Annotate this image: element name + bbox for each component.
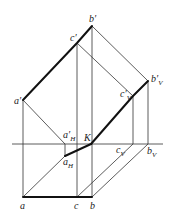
label-c-v: cV bbox=[116, 144, 125, 158]
shadow-ray-a-prime bbox=[23, 100, 65, 144]
label-c: c bbox=[74, 200, 79, 211]
line-a-prime-b-prime bbox=[23, 26, 92, 100]
shadow-ray-b-prime bbox=[92, 26, 148, 81]
label-c-prime-v: c′V bbox=[120, 88, 132, 102]
label-a: a bbox=[20, 200, 25, 211]
label-b-v: bV bbox=[147, 145, 157, 159]
label-b-prime-v: b′V bbox=[151, 73, 163, 87]
label-k: K bbox=[83, 132, 92, 143]
label-b-prime: b′ bbox=[89, 13, 97, 24]
label-a-h: aH bbox=[63, 156, 74, 170]
label-b: b bbox=[90, 200, 95, 211]
label-c-prime: c′ bbox=[70, 32, 77, 43]
label-a-prime-h: a′H bbox=[63, 129, 76, 143]
label-a-prime: a′ bbox=[14, 95, 22, 106]
shadow-ray-a bbox=[23, 156, 65, 197]
shadow-line-break bbox=[65, 144, 91, 156]
projection-diagram: b′ c′ a′ b′V c′V a′H K aH cV bV a c b bbox=[0, 0, 175, 220]
